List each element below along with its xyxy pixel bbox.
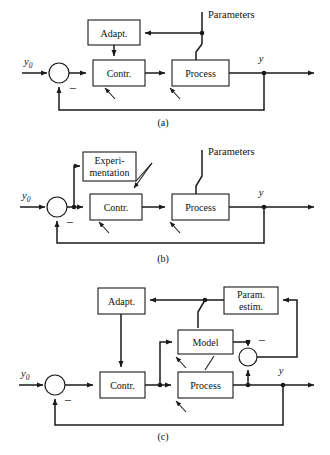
input-label-c: y0 <box>20 368 30 382</box>
model-to-comparator-c <box>233 342 248 346</box>
block-process-b: Process <box>172 194 229 220</box>
caption-c: (c) <box>157 431 168 443</box>
feedback-path-b <box>57 207 264 243</box>
tuning-slash-process-c <box>176 401 186 412</box>
block-process-c: Process <box>178 372 233 398</box>
feedback-path-a <box>59 73 264 110</box>
summing-junction-b <box>47 197 67 217</box>
tuning-slash-contr-b <box>99 222 109 233</box>
panel-b: Experi- mentation Contr. Process y0 y <box>20 146 314 265</box>
summing-minus-a: − <box>69 81 76 96</box>
summing-junction-c <box>45 375 65 395</box>
block-experimentation-b-label-line1: Experi- <box>95 155 125 166</box>
summing-minus-c: − <box>64 393 71 408</box>
experimentation-diag-lead-b <box>136 163 152 181</box>
tuning-lead-process-c <box>205 356 214 370</box>
block-param-estim-c-label-line2: estim. <box>239 301 263 312</box>
block-adapt-c: Adapt. <box>98 288 145 314</box>
parameters-line-b <box>196 150 202 194</box>
tuning-slash-process-b <box>170 222 180 233</box>
summing-junction-a <box>49 63 69 83</box>
feedback-path-c <box>55 385 283 425</box>
parameters-label-b: Parameters <box>208 146 255 157</box>
output-label-c: y <box>278 365 284 376</box>
block-process-a-label: Process <box>185 68 216 79</box>
tuning-slash-model-c <box>176 357 186 368</box>
control-to-model-c <box>160 342 172 385</box>
block-adapt-a-label: Adapt. <box>101 28 128 39</box>
block-experimentation-b: Experi- mentation <box>83 152 136 181</box>
comparator-junction-c <box>239 348 257 366</box>
output-label-b: y <box>258 187 264 198</box>
block-contr-b-label: Contr. <box>104 202 129 213</box>
tuning-slash-process-a <box>170 88 180 99</box>
block-process-a: Process <box>172 60 229 86</box>
tuning-slash-contr-a <box>105 88 115 99</box>
block-param-estim-c-label-line1: Param. <box>237 289 265 300</box>
caption-a: (a) <box>157 117 168 129</box>
figure-canvas: Adapt. Contr. Process y0 y − <box>0 0 330 455</box>
block-experimentation-b-label-line2: mentation <box>90 167 130 178</box>
block-process-b-label: Process <box>185 202 216 213</box>
block-model-c-label: Model <box>192 337 218 348</box>
block-contr-c-label: Contr. <box>110 380 135 391</box>
parameters-to-process-a <box>196 44 202 60</box>
block-contr-c: Contr. <box>100 372 145 398</box>
output-label-a: y <box>258 53 264 64</box>
input-label-a: y0 <box>23 56 33 70</box>
input-label-b: y0 <box>21 190 31 204</box>
block-model-c: Model <box>178 330 233 354</box>
block-process-c-label: Process <box>190 380 221 391</box>
caption-b: (b) <box>157 253 169 265</box>
branch-to-experimentation-b <box>74 166 80 207</box>
panel-c: Adapt. Param. estim. Model Contr. Proces… <box>19 287 314 443</box>
block-adapt-a: Adapt. <box>88 20 140 45</box>
summing-minus-b: − <box>66 215 73 230</box>
block-param-estim-c: Param. estim. <box>224 287 278 314</box>
panel-a: Adapt. Contr. Process y0 y − <box>22 9 314 129</box>
block-contr-b: Contr. <box>90 194 142 220</box>
parameters-label-a: Parameters <box>208 9 255 20</box>
block-contr-a-label: Contr. <box>107 68 132 79</box>
model-out-node-c <box>246 340 251 345</box>
param-to-model-c <box>198 300 205 328</box>
block-adapt-c-label: Adapt. <box>108 296 135 307</box>
comparator-minus-c: − <box>258 333 265 348</box>
block-contr-a: Contr. <box>93 60 145 86</box>
